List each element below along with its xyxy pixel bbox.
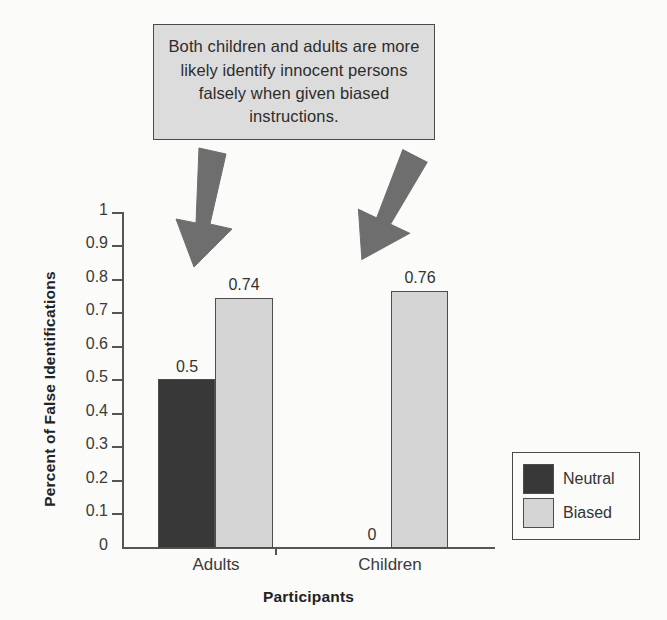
legend: Neutral Biased — [512, 452, 640, 540]
y-tick-0.3 — [112, 446, 122, 448]
annotation-arrow-right — [345, 142, 433, 270]
x-category-divider — [275, 547, 277, 555]
legend-label-neutral: Neutral — [563, 470, 615, 488]
bar-adults-biased[interactable] — [215, 298, 273, 548]
legend-swatch-biased — [523, 498, 554, 528]
y-tick-0.2 — [112, 480, 122, 482]
y-tick-label: 0.7 — [66, 301, 108, 319]
y-tick-0.4 — [112, 413, 122, 415]
y-tick-label: 0.5 — [66, 368, 108, 386]
y-axis-line — [122, 212, 124, 548]
y-tick-0.5 — [112, 379, 122, 381]
y-tick-label: 0.3 — [66, 435, 108, 453]
bar-value-label-children-neutral: 0 — [368, 526, 377, 544]
y-tick-0.6 — [112, 346, 122, 348]
bar-value-label-adults-neutral: 0.5 — [176, 358, 198, 376]
y-tick-label: 1 — [66, 201, 108, 219]
annotation-text: Both children and adults are more likely… — [154, 35, 434, 129]
bar-children-biased[interactable] — [391, 291, 448, 548]
legend-swatch-neutral — [523, 464, 554, 494]
bar-chart-figure: Both children and adults are more likely… — [0, 0, 667, 620]
y-tick-0.1 — [112, 513, 122, 515]
legend-item-neutral[interactable]: Neutral — [523, 462, 639, 496]
y-tick-0.8 — [112, 279, 122, 281]
y-tick-0.7 — [112, 312, 122, 314]
bar-value-label-children-biased: 0.76 — [404, 269, 435, 287]
y-tick-label: 0.6 — [66, 335, 108, 353]
x-category-label-adults: Adults — [192, 555, 239, 575]
bar-adults-neutral[interactable] — [158, 379, 215, 548]
annotation-arrow-left — [176, 148, 232, 267]
y-tick-label: 0.4 — [66, 402, 108, 420]
annotation-callout-box: Both children and adults are more likely… — [153, 24, 435, 140]
y-tick-label: 0.1 — [66, 502, 108, 520]
x-category-label-children: Children — [358, 555, 421, 575]
y-tick-label: 0 — [66, 536, 108, 554]
y-tick-label: 0.2 — [66, 469, 108, 487]
y-tick-label: 0.8 — [66, 268, 108, 286]
legend-item-biased[interactable]: Biased — [523, 496, 639, 530]
legend-label-biased: Biased — [563, 504, 612, 522]
bar-value-label-adults-biased: 0.74 — [228, 276, 259, 294]
y-tick-1 — [112, 212, 122, 214]
y-tick-label: 0.9 — [66, 234, 108, 252]
x-axis-title: Participants — [122, 588, 495, 606]
y-tick-0.9 — [112, 245, 122, 247]
y-axis-title: Percent of False Identifications — [41, 239, 59, 539]
